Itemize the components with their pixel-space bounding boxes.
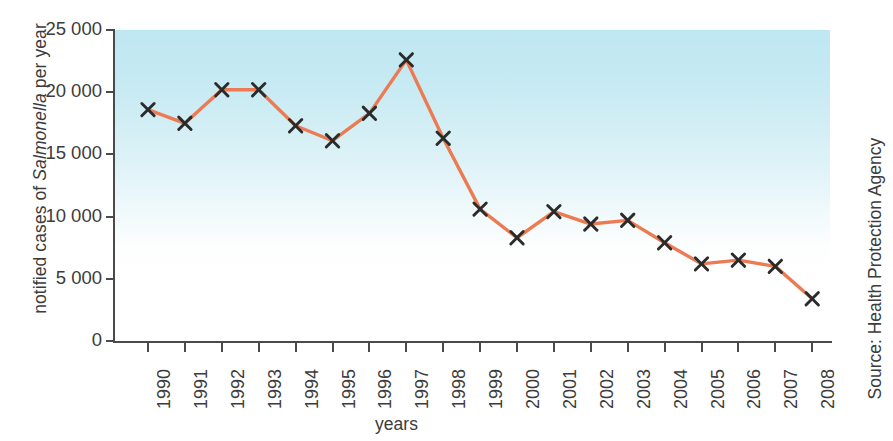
y-axis-tick-mark xyxy=(106,29,114,31)
x-axis-tick-mark xyxy=(590,343,592,352)
x-axis-tick-mark xyxy=(737,343,739,352)
x-axis-tick-mark xyxy=(184,343,186,352)
y-axis-tick-label: 20 000 xyxy=(16,82,102,101)
x-axis-tick-label: 2003 xyxy=(635,345,653,409)
x-axis-tick-label: 1999 xyxy=(487,345,505,409)
x-axis-tick-mark xyxy=(774,343,776,352)
plot-area xyxy=(114,30,830,341)
y-axis-tick-mark xyxy=(106,91,114,93)
x-axis-tick-label: 1996 xyxy=(376,345,394,409)
x-axis-tick-mark xyxy=(405,343,407,352)
x-axis-tick-mark xyxy=(147,343,149,352)
y-axis-tick-mark xyxy=(106,340,114,342)
x-axis-tick-label: 1991 xyxy=(192,345,210,409)
y-axis-tick-mark xyxy=(106,278,114,280)
y-axis-tick-mark xyxy=(106,216,114,218)
x-axis-tick-label: 2005 xyxy=(709,345,727,409)
x-axis-tick-label: 1990 xyxy=(155,345,173,409)
x-axis-tick-mark xyxy=(811,343,813,352)
x-axis-tick-mark xyxy=(664,343,666,352)
data-point-marker xyxy=(658,237,670,249)
x-axis-tick-label: 2002 xyxy=(598,345,616,409)
x-axis-tick-mark xyxy=(627,343,629,352)
data-point-marker xyxy=(363,107,375,119)
x-axis-title: years xyxy=(0,414,893,435)
y-axis-tick-labels: 25 00020 00015 00010 0005 0000 xyxy=(16,0,102,441)
data-point-marker xyxy=(806,293,818,305)
y-axis-tick-mark xyxy=(106,153,114,155)
y-axis-tick-label: 15 000 xyxy=(16,144,102,163)
cropped-caption-band xyxy=(0,0,893,9)
y-axis-line xyxy=(113,29,115,343)
x-axis-tick-label: 2007 xyxy=(782,345,800,409)
x-axis-tick-label: 1993 xyxy=(266,345,284,409)
data-point-marker xyxy=(400,54,412,66)
x-axis-tick-mark xyxy=(442,343,444,352)
x-axis-tick-mark xyxy=(295,343,297,352)
y-axis-tick-label: 10 000 xyxy=(16,207,102,226)
x-axis-tick-mark xyxy=(553,343,555,352)
x-axis-tick-mark xyxy=(479,343,481,352)
y-axis-tick-label: 25 000 xyxy=(16,20,102,39)
y-axis-tick-label: 0 xyxy=(16,331,102,350)
x-axis-tick-mark xyxy=(701,343,703,352)
x-axis-tick-label: 2004 xyxy=(672,345,690,409)
x-axis-tick-label: 1998 xyxy=(450,345,468,409)
x-axis-tick-mark xyxy=(258,343,260,352)
x-axis-tick-mark xyxy=(332,343,334,352)
y-axis-tick-label: 5 000 xyxy=(16,269,102,288)
x-axis-tick-label: 1997 xyxy=(413,345,431,409)
series-line xyxy=(148,60,812,299)
x-axis-tick-mark xyxy=(516,343,518,352)
x-axis-tick-label: 1992 xyxy=(229,345,247,409)
x-axis-tick-label: 1994 xyxy=(303,345,321,409)
data-point-marker xyxy=(511,232,523,244)
x-axis-tick-mark xyxy=(368,343,370,352)
x-axis-tick-label: 1995 xyxy=(340,345,358,409)
x-axis-tick-label: 2001 xyxy=(561,345,579,409)
data-point-marker xyxy=(437,132,449,144)
x-axis-tick-label: 2000 xyxy=(524,345,542,409)
x-axis-tick-mark xyxy=(221,343,223,352)
x-axis-tick-label: 2006 xyxy=(745,345,763,409)
series-svg xyxy=(114,30,830,341)
data-point-marker xyxy=(474,203,486,215)
source-note: Source: Health Protection Agency xyxy=(865,40,886,400)
x-axis-tick-label: 2008 xyxy=(819,345,837,409)
salmonella-cases-line-chart: notified cases of Salmonella per year 25… xyxy=(0,0,893,441)
